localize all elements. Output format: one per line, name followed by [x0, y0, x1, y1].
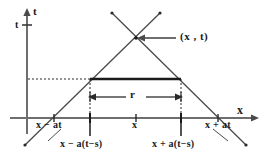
t-axis-label: t: [33, 6, 37, 17]
characteristic-endpoint-dot-lower-right: [244, 143, 247, 146]
apex-callout-arrowhead: [137, 34, 145, 41]
t-axis-arrowhead: [23, 8, 30, 16]
x-axis-arrowhead: [251, 114, 259, 121]
interval-measure-arrowhead-right: [175, 94, 183, 101]
interval-measure-arrowhead-left: [88, 94, 96, 101]
x-axis-tick-label-right-inner: x + a(t−s): [152, 139, 194, 149]
right-base-label-pointer: [213, 129, 228, 141]
characteristic-endpoint-dot-upper-right: [158, 11, 161, 14]
dropper-lines-group: [90, 79, 181, 118]
interval-measure-label: r: [130, 89, 135, 100]
characteristic-endpoint-dot-upper-left: [110, 11, 113, 14]
apex-point-label: (x , t): [180, 31, 208, 42]
x-axis-tick-label-right-base: x + at: [205, 120, 231, 130]
interval-measure-group: [88, 92, 183, 102]
x-axis-tick-label-left-base: x − at: [36, 120, 62, 130]
t-axis-tick-label: t: [15, 20, 18, 30]
x-axis-tick-label-center: x: [132, 120, 137, 130]
wave-equation-characteristic-diagram: t t x (x , t) r x − at x x + at x − a(t−…: [0, 0, 267, 157]
x-axis-tick-label-left-inner: x − a(t−s): [60, 139, 102, 149]
diagram-canvas: [0, 0, 267, 157]
x-axis-label: x: [237, 104, 243, 116]
axes-group: [10, 8, 259, 134]
characteristic-endpoint-dot-lower-left: [23, 143, 26, 146]
